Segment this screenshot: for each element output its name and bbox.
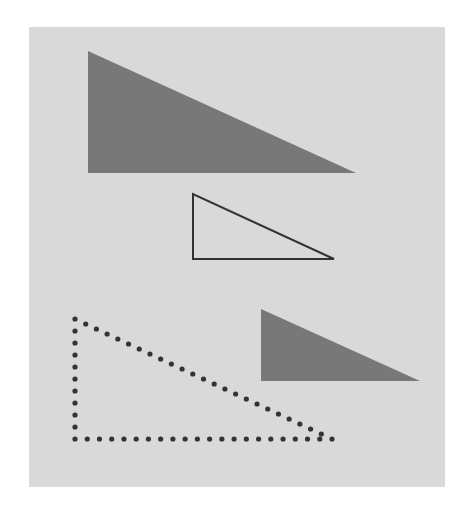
dot [72,388,77,393]
dot [134,436,139,441]
dot [72,316,77,321]
dot [146,436,151,441]
dot [212,381,217,386]
dot [244,436,249,441]
dot [147,351,152,356]
dot [244,396,249,401]
dot [72,436,77,441]
dot [201,376,206,381]
dot [72,340,77,345]
dot [233,391,238,396]
dot [158,436,163,441]
dot [280,436,285,441]
dot [97,436,102,441]
dot [158,356,163,361]
dot [121,436,126,441]
dot [85,436,90,441]
dot [115,336,120,341]
dot [308,426,313,431]
dot [254,401,259,406]
dot [137,346,142,351]
triangle-diagram [0,0,462,510]
dot [170,436,175,441]
dot [297,421,302,426]
dot [72,424,77,429]
dot [72,364,77,369]
dot [179,366,184,371]
dot [195,436,200,441]
dot [126,341,131,346]
dot [207,436,212,441]
dot [256,436,261,441]
dot [222,386,227,391]
dot [72,328,77,333]
dot [305,436,310,441]
dot [105,331,110,336]
dot [83,321,88,326]
dot [72,412,77,417]
dot [219,436,224,441]
dot [183,436,188,441]
dot [268,436,273,441]
dot [293,436,298,441]
dot [317,436,322,441]
dot [276,411,281,416]
dot [72,400,77,405]
dot [72,376,77,381]
dot [109,436,114,441]
dot [190,371,195,376]
dot [319,431,324,436]
dot [72,352,77,357]
dot [329,436,334,441]
dot [94,326,99,331]
dot [169,361,174,366]
dot [265,406,270,411]
dot [287,416,292,421]
dot [231,436,236,441]
